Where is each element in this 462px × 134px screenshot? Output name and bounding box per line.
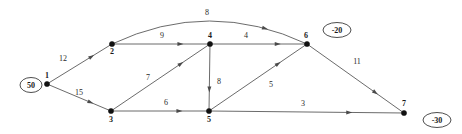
- edge-arrowhead: [262, 26, 268, 30]
- edge-arrowhead: [87, 99, 93, 103]
- edges-layer: [49, 21, 402, 114]
- node-label-5: 5: [207, 115, 211, 124]
- edge-5-to-7: [211, 111, 402, 113]
- edge-cost-label-1-3: 15: [75, 88, 83, 97]
- edge-3-to-4: [113, 45, 208, 110]
- node-4[interactable]: [207, 41, 212, 46]
- edge-cost-label-3-5: 6: [164, 98, 168, 107]
- node-3[interactable]: [108, 108, 113, 113]
- network-canvas: 1234567 50-20-30 12159876485311: [0, 0, 462, 134]
- node-1[interactable]: [44, 81, 49, 86]
- edge-4-to-5: [209, 46, 210, 109]
- edge-cost-label-4-5: 8: [217, 77, 221, 86]
- node-label-2: 2: [110, 47, 114, 56]
- edge-cost-label-2-4: 9: [160, 31, 164, 40]
- edge-1-to-2: [49, 45, 110, 83]
- edge-cost-label-2-6: 8: [205, 8, 209, 17]
- edge-arrowhead: [207, 86, 211, 92]
- edge-cost-label-3-4: 7: [146, 73, 150, 82]
- edge-6-to-7: [309, 45, 402, 111]
- node-2[interactable]: [109, 41, 114, 46]
- node-6[interactable]: [304, 41, 309, 46]
- supply-value-node-6: -20: [332, 26, 343, 35]
- node-label-3: 3: [109, 115, 113, 124]
- node-label-4: 4: [208, 31, 212, 40]
- edge-arrowhead: [346, 110, 352, 114]
- supply-value-node-1: 50: [27, 81, 35, 90]
- node-label-1: 1: [45, 71, 49, 80]
- nodes-layer: 1234567: [44, 31, 406, 124]
- edge-5-to-6: [211, 45, 305, 110]
- edge-cost-label-5-7: 3: [301, 99, 305, 108]
- node-5[interactable]: [206, 108, 211, 113]
- network-flow-diagram: 1234567 50-20-30 12159876485311: [0, 0, 462, 134]
- node-7[interactable]: [401, 110, 406, 115]
- edge-cost-label-5-6: 5: [269, 80, 273, 89]
- edge-arrowhead: [177, 42, 183, 46]
- supplies-layer: 50-20-30: [20, 23, 451, 128]
- edge-cost-label-1-2: 12: [59, 54, 67, 63]
- node-label-7: 7: [402, 99, 406, 108]
- edge-arrowhead: [275, 62, 281, 67]
- edge-arrowhead: [275, 42, 281, 46]
- edge-arrowhead: [88, 55, 94, 60]
- supply-value-node-7: -30: [432, 116, 443, 125]
- node-label-6: 6: [304, 31, 308, 40]
- edge-arrowhead: [176, 109, 182, 113]
- edge-cost-label-6-7: 11: [353, 57, 361, 66]
- edge-cost-label-4-6: 4: [244, 31, 248, 40]
- edge-arrowhead: [372, 89, 378, 94]
- edge-arrowhead: [177, 62, 183, 67]
